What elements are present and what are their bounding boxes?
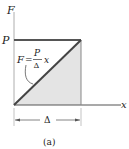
equation-lhs: F xyxy=(16,54,25,65)
equation-equals: = xyxy=(25,55,33,65)
equation-variable: x xyxy=(44,55,49,65)
arrow-right-icon xyxy=(75,119,80,122)
leader-curve xyxy=(25,65,33,84)
p-tick-label: P xyxy=(1,34,10,47)
dimension-label: Δ xyxy=(44,115,51,125)
f-axis-label: F xyxy=(6,4,15,17)
force-displacement-diagram: F P x F = P Δ x Δ (a) xyxy=(0,0,129,149)
x-axis-label: x xyxy=(121,99,127,110)
arrow-left-icon xyxy=(15,119,20,122)
figure-caption: (a) xyxy=(43,137,55,147)
equation-denominator: Δ xyxy=(34,61,40,70)
equation-numerator: P xyxy=(33,48,41,58)
